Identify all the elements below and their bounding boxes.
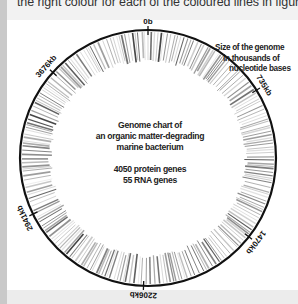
center-title-line: marine bacterium	[78, 142, 222, 153]
rna-gene-count: 55 RNA genes	[78, 175, 222, 186]
annotation-line: Size of the genome	[215, 43, 297, 54]
ring-position-label: 0b	[143, 17, 152, 26]
protein-gene-count: 4050 protein genes	[78, 164, 222, 175]
ring-position-label: 2941kb	[15, 204, 35, 232]
genome-chart-description: Genome chart of an organic matter-degrad…	[78, 120, 222, 186]
ring-position-label: 3676kb	[34, 53, 59, 79]
ring-position-label: 735kb	[254, 73, 274, 97]
ring-position-label: 2206kb	[129, 290, 157, 300]
annotation-line: in thousands of	[215, 54, 297, 65]
annotation-line: nucleotide bases	[215, 64, 297, 75]
center-title-line: Genome chart of	[78, 120, 222, 131]
center-title-line: an organic matter-degrading	[78, 131, 222, 142]
genome-size-annotation: Size of the genome in thousands of nucle…	[215, 43, 297, 75]
